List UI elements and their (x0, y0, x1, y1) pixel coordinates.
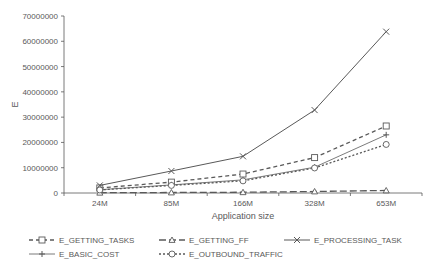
legend-item-outbound-traffic: E_OUTBOUND_TRAFFIC (158, 249, 283, 259)
y-tick-label: 30000000 (22, 113, 58, 122)
legend-label: E_GETTING_TASKS (59, 236, 134, 245)
x-tick-label: 85M (164, 199, 180, 208)
legend-item-basic-cost: E_BASIC_COST (28, 249, 158, 259)
triangle-marker-icon (158, 235, 186, 245)
plus-marker-icon (28, 249, 56, 259)
series-e-getting-ff (97, 187, 389, 195)
x-tick-label: 328M (305, 199, 325, 208)
x-tick-label: 653M (376, 199, 396, 208)
series-e-outbound-traffic (97, 141, 389, 193)
y-tick-label: 50000000 (22, 63, 58, 72)
series-e-processing-task (97, 29, 389, 189)
x-tick-label: 24M (92, 199, 108, 208)
circle-marker-icon (158, 249, 186, 259)
x-marker-icon (283, 235, 311, 245)
chart-legend: E_GETTING_TASKS E_GETTING_FF E_PROCESSIN… (28, 233, 418, 261)
legend-item-getting-ff: E_GETTING_FF (158, 235, 283, 245)
legend-label: E_PROCESSING_TASK (314, 236, 402, 245)
y-tick-label: 60000000 (22, 37, 58, 46)
y-tick-label: 10000000 (22, 164, 58, 173)
legend-item-processing-task: E_PROCESSING_TASK (283, 235, 402, 245)
y-tick-label: 40000000 (22, 88, 58, 97)
y-tick-label: 0 (54, 189, 59, 198)
legend-item-getting-tasks: E_GETTING_TASKS (28, 235, 158, 245)
y-tick-label: 70000000 (22, 12, 58, 21)
x-tick-label: 166M (233, 199, 253, 208)
x-axis-title: Application size (212, 211, 275, 221)
legend-label: E_BASIC_COST (59, 250, 119, 259)
y-tick-label: 20000000 (22, 138, 58, 147)
legend-label: E_GETTING_FF (189, 236, 249, 245)
square-marker-icon (28, 235, 56, 245)
line-chart: 0100000002000000030000000400000005000000… (0, 0, 432, 230)
legend-label: E_OUTBOUND_TRAFFIC (189, 250, 283, 259)
y-axis-title: E (10, 101, 20, 107)
